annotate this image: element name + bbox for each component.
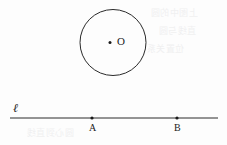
point-a-dot	[90, 116, 93, 119]
geometry-canvas	[0, 0, 227, 145]
point-b-dot	[175, 116, 178, 119]
point-label-a: A	[89, 123, 96, 133]
point-label-b: B	[174, 123, 181, 133]
line-label-l: ℓ	[13, 102, 18, 114]
circle-center-label: O	[117, 36, 125, 47]
geometry-figure: 上图中的圆 直线与圆 位置关系 圆心到直线 O ℓ A B	[0, 0, 227, 145]
circle-outline	[80, 10, 146, 76]
circle-center-dot	[109, 41, 112, 44]
